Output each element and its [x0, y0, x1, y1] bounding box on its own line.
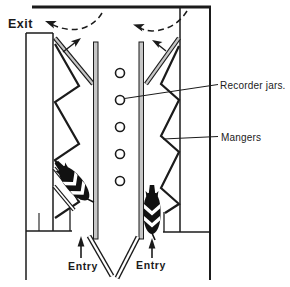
recorder-jars-label: Recorder jars.: [220, 80, 286, 91]
exit-arrow-left: [44, 13, 102, 29]
exit-arrow-right: [132, 11, 187, 32]
recorder-jar: [116, 177, 125, 186]
entry-label-right: Entry: [136, 259, 166, 271]
cow-left: [50, 157, 99, 210]
recorder-jar: [116, 123, 125, 132]
entry-gate-right: [117, 237, 138, 278]
mangers-label: Mangers: [221, 132, 261, 143]
outer-walls: [26, 6, 211, 280]
parlour-diagram: Exit Recorder jars. Mangers Entry Entry: [0, 0, 290, 287]
arrowhead: [78, 236, 85, 247]
parlour-diagram-svg: Exit Recorder jars. Mangers Entry Entry: [0, 0, 290, 287]
entry-arrow-left: [78, 236, 85, 258]
entry-label-left: Entry: [68, 260, 98, 272]
recorder-jars: [116, 69, 125, 186]
pit-rail-left: [94, 42, 99, 239]
arrowhead: [44, 17, 57, 28]
cow-tail: [152, 233, 155, 240]
stall-arrow-left: [63, 35, 83, 52]
entry-arrow-right: [149, 238, 156, 258]
cow-right: [143, 185, 160, 240]
pit-rail-right: [139, 42, 144, 239]
recorder-jar: [116, 150, 125, 159]
stall-arrow-right: [150, 37, 166, 51]
recorder-jar: [116, 69, 125, 78]
mangers-zigzag-right: [161, 46, 179, 213]
recorder-jar: [116, 96, 125, 105]
rump-rail-right: [146, 38, 179, 84]
exit-label: Exit: [8, 17, 33, 31]
